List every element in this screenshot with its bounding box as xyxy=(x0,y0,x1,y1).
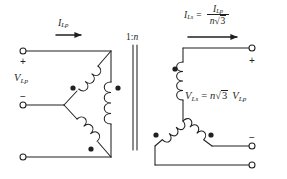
secondary-voltage-radicand: 3 xyxy=(221,90,228,102)
denominator-radicand: 3 xyxy=(220,15,227,26)
primary-current-label: ILp xyxy=(58,18,69,29)
polarity-dot-icon xyxy=(70,85,75,90)
delta-lower-branch xyxy=(64,105,111,157)
secondary-current-equals: = xyxy=(196,10,201,20)
fraction-denominator: n√3 xyxy=(207,14,230,26)
secondary-current-lhs: ILs xyxy=(184,10,193,20)
wye-phase-a-branch xyxy=(177,62,183,121)
primary-voltage-subscript: Lp xyxy=(20,77,28,85)
numerator-subscript: Lp xyxy=(216,7,223,14)
primary-minus-sign: − xyxy=(20,92,26,102)
secondary-current-subscript: Ls xyxy=(187,13,193,20)
polarity-dot-icon xyxy=(172,66,177,71)
terminal-circle-icon[interactable] xyxy=(249,45,255,51)
polarity-dot-icon xyxy=(153,132,158,137)
secondary-current-fraction: ILp n√3 xyxy=(207,4,230,26)
terminal-circle-icon[interactable] xyxy=(20,102,26,108)
primary-current-subscript: Lp xyxy=(61,21,68,28)
polarity-dot-icon xyxy=(208,132,213,137)
terminal-circle-icon[interactable] xyxy=(249,143,255,149)
secondary-top-lead xyxy=(183,48,249,62)
transformer-diagram-figure: ILp VLp + − 1:n ILs = ILp n√3 VLs=n√3VLp… xyxy=(0,0,287,179)
polarity-dots xyxy=(70,66,213,151)
transformer-core-icon xyxy=(133,45,137,150)
secondary-plus-sign: + xyxy=(249,56,255,66)
primary-plus-sign: + xyxy=(20,57,26,67)
secondary-voltage-equals: = xyxy=(201,90,207,101)
polarity-dot-icon xyxy=(88,146,93,151)
terminal-circle-icon[interactable] xyxy=(249,162,255,168)
secondary-voltage-equation: VLs=n√3VLp xyxy=(185,90,246,103)
secondary-voltage-of-subscript: Lp xyxy=(239,95,247,103)
secondary-voltage-subscript: Ls xyxy=(191,95,198,103)
wye-phase-c-branch xyxy=(155,121,249,165)
turns-ratio-n: n xyxy=(133,32,138,42)
wye-phase-b-branch xyxy=(183,117,249,146)
secondary-minus-sign: − xyxy=(249,133,255,143)
primary-voltage-label: VLp xyxy=(14,73,28,85)
delta-right-branch xyxy=(104,51,111,157)
secondary-current-equation: ILs = ILp n√3 xyxy=(184,4,229,26)
terminal-circle-icon[interactable] xyxy=(20,48,26,54)
polarity-dot-icon xyxy=(115,85,120,90)
fraction-numerator: ILp xyxy=(210,4,226,14)
terminal-circle-icon[interactable] xyxy=(20,154,26,160)
turns-ratio-label: 1:n xyxy=(126,32,138,42)
